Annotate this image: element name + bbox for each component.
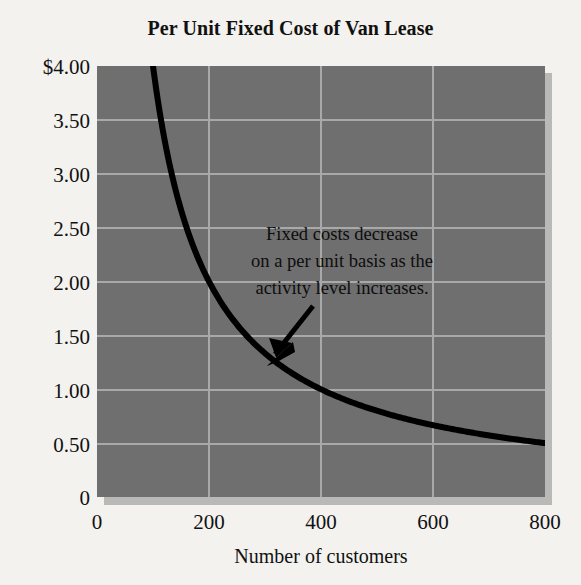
- y-tick-3-00: 3.00: [2, 163, 90, 188]
- y-tick-3-50: 3.50: [2, 109, 90, 134]
- x-tick-0: 0: [57, 510, 137, 535]
- y-tick-2-50: 2.50: [2, 217, 90, 242]
- y-tick-1-50: 1.50: [2, 325, 90, 350]
- y-tick-1-00: 1.00: [2, 379, 90, 404]
- y-tick-2-00: 2.00: [2, 271, 90, 296]
- plot-area: Fixed costs decrease on a per unit basis…: [97, 66, 545, 497]
- chart-figure: Per Unit Fixed Cost of Van Lease Fixed c…: [0, 0, 581, 585]
- y-tick-4-00: $4.00: [2, 55, 90, 80]
- x-tick-600: 600: [393, 510, 473, 535]
- y-tick-0: 0: [2, 486, 90, 511]
- x-axis-title: Number of customers: [97, 545, 545, 568]
- x-tick-200: 200: [169, 510, 249, 535]
- annotation-arrow-icon: [97, 66, 545, 497]
- x-tick-400: 400: [281, 510, 361, 535]
- x-tick-800: 800: [505, 510, 581, 535]
- y-tick-0-50: 0.50: [2, 433, 90, 458]
- y-axis-ticks: $4.00 3.50 3.00 2.50 2.00 1.50 1.00 0.50…: [0, 0, 90, 585]
